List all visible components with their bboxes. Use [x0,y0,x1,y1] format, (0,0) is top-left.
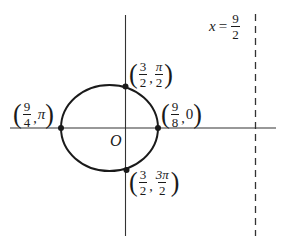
theta-frac: π 2 [155,60,164,89]
label-point-left: ( 9 4 , π ) [13,100,54,129]
theta-value: π [38,107,46,122]
frac-den: 2 [155,74,164,89]
r-frac: 3 2 [139,168,148,197]
frac-den: 8 [171,114,180,129]
point-left [58,125,64,131]
frac-num: π [155,60,164,74]
frac-num: 3 [139,168,148,182]
directrix-frac: 9 2 [231,12,240,41]
frac-num: 9 [171,100,180,114]
frac-den: 2 [139,74,148,89]
frac-num: 3π [155,168,170,182]
directrix-label: x = 9 2 [209,12,241,41]
frac-den: 4 [23,114,32,129]
frac-num: 3 [139,60,148,74]
frac-den: 2 [139,182,148,197]
theta-frac: 3π 2 [155,168,170,197]
origin-label: O [110,133,122,149]
directrix-eq: = [219,19,227,34]
label-point-bottom: ( 3 2 , 3π 2 ) [129,168,179,197]
r-frac: 9 4 [23,100,32,129]
label-point-right: ( 9 8 , 0 ) [161,100,202,129]
r-frac: 3 2 [139,60,148,89]
directrix-var: x [209,19,216,34]
label-point-top: ( 3 2 , π 2 ) [129,60,173,89]
point-top [123,84,129,90]
frac-num: 9 [23,100,32,114]
frac-den: 2 [158,182,167,197]
theta-value: 0 [186,107,194,122]
frac-num: 9 [231,12,240,26]
frac-den: 2 [231,26,240,41]
r-frac: 9 8 [171,100,180,129]
